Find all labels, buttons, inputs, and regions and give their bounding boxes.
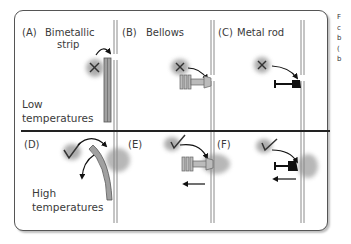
panel-a-tag: (A) (22, 27, 37, 39)
side-caption: F c b ( b (337, 12, 351, 65)
panel-d-tag: (D) (24, 139, 40, 151)
bimetallic-strip-straight (104, 58, 111, 122)
high-temp-line1: High (32, 186, 103, 200)
low-temp-label: Low temperatures (22, 97, 93, 125)
panel-c-tag: (C) (218, 27, 233, 39)
panel-a-title: Bimetallic (45, 27, 94, 39)
panel-b-title: Bellows (146, 27, 184, 39)
high-temp-label: High temperatures (32, 186, 103, 214)
bellows (180, 75, 211, 89)
panel-a-title2: strip (57, 39, 79, 51)
metal-rod (274, 80, 301, 88)
panel-b-tag: (B) (122, 27, 137, 39)
rails (114, 20, 304, 223)
panel-f-tag: (F) (217, 139, 231, 151)
low-temp-line2: temperatures (22, 111, 93, 125)
panel-c-title: Metal rod (237, 27, 284, 39)
high-temp-line2: temperatures (32, 200, 103, 214)
low-temp-line1: Low (22, 97, 93, 111)
panel-e-tag: (E) (128, 139, 142, 151)
